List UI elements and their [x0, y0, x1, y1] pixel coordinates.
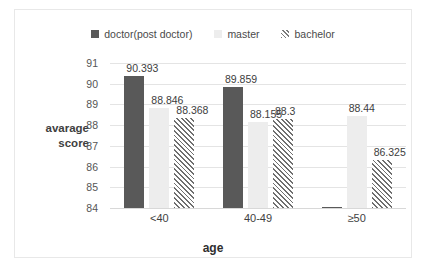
bar-master[interactable] — [248, 122, 268, 208]
x-axis-title: age — [15, 242, 411, 254]
y-axis-tick-label: 89 — [86, 99, 98, 110]
legend-label-doctor: doctor(post doctor) — [104, 29, 192, 40]
bar-value-label: 89.859 — [225, 74, 257, 85]
chart-container: doctor(post doctor) master bachelor avar… — [14, 9, 412, 258]
chart-legend: doctor(post doctor) master bachelor — [15, 29, 411, 40]
bar-value-label: 88.3 — [275, 106, 295, 117]
y-axis-tick-label: 91 — [86, 58, 98, 69]
bar-doctorpostdoctor[interactable] — [223, 87, 243, 208]
bar-doctorpostdoctor[interactable] — [322, 207, 342, 208]
bar-group: 90.39388.84688.368 — [110, 63, 209, 208]
bar-groups: 90.39388.84688.36889.85988.15588.388.448… — [110, 63, 406, 208]
y-axis-ticks: 9190898887868584 — [15, 63, 104, 208]
x-axis-tick-label: ≥50 — [307, 213, 406, 224]
bar-bachelor[interactable] — [372, 160, 392, 208]
legend-item-doctor[interactable]: doctor(post doctor) — [91, 29, 192, 40]
plot-area: 90.39388.84688.36889.85988.15588.388.448… — [110, 63, 406, 208]
bar-group: 88.4486.325 — [307, 63, 406, 208]
bar-value-label: 90.393 — [126, 63, 158, 74]
y-axis-tick-label: 87 — [86, 141, 98, 152]
y-axis-tick-label: 85 — [86, 182, 98, 193]
bachelor-swatch-icon — [281, 30, 289, 38]
master-swatch-icon — [214, 30, 222, 38]
bar-bachelor[interactable] — [174, 118, 194, 208]
bar-value-label: 86.325 — [374, 147, 406, 158]
y-axis-tick-label: 86 — [86, 162, 98, 173]
bar-group: 89.85988.15588.3 — [209, 63, 308, 208]
bar-value-label: 88.44 — [349, 103, 375, 114]
doctor-swatch-icon — [91, 30, 99, 38]
bar-master[interactable] — [347, 116, 367, 208]
bar-value-label: 88.368 — [176, 105, 208, 116]
legend-item-bachelor[interactable]: bachelor — [281, 29, 334, 40]
legend-item-master[interactable]: master — [214, 29, 259, 40]
legend-label-bachelor: bachelor — [294, 29, 334, 40]
y-axis-tick-label: 90 — [86, 79, 98, 90]
y-axis-tick-label: 88 — [86, 120, 98, 131]
bar-doctorpostdoctor[interactable] — [124, 76, 144, 208]
x-axis-ticks: <4040-49≥50 — [110, 213, 406, 229]
y-axis-tick-label: 84 — [86, 203, 98, 214]
x-axis-tick-label: <40 — [110, 213, 209, 224]
legend-label-master: master — [227, 29, 259, 40]
bar-master[interactable] — [149, 108, 169, 208]
bar-bachelor[interactable] — [273, 119, 293, 208]
gridline — [110, 208, 406, 209]
x-axis-tick-label: 40-49 — [209, 213, 308, 224]
